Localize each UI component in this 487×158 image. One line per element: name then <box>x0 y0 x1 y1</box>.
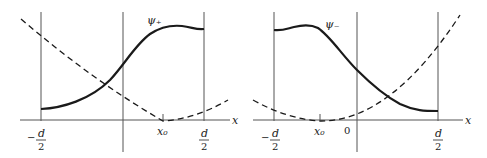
right-wall-den: 2 <box>201 141 207 152</box>
panel-psi-minus: ψ₋ x − d 2 x₀ 0 d 2 <box>253 12 472 152</box>
right-wall-num: d <box>201 127 208 140</box>
left-wall-den: 2 <box>38 141 44 152</box>
curve-label: ψ₋ <box>325 18 340 31</box>
wavefunction-solid-curve <box>274 25 438 111</box>
potential-dashed-curve <box>21 19 228 121</box>
x-axis-label: x <box>465 114 472 127</box>
left-wall-den: 2 <box>272 141 278 152</box>
left-wall-sign: − <box>27 132 35 143</box>
curve-label: ψ₊ <box>147 14 162 27</box>
x-axis-label: x <box>232 114 239 127</box>
right-wall-den: 2 <box>435 141 441 152</box>
x0-label: x₀ <box>314 125 325 138</box>
panel-psi-plus: ψ₊ x − d 2 x₀ d 2 <box>20 12 239 152</box>
left-wall-sign: − <box>261 132 269 143</box>
diagram-canvas: ψ₊ x − d 2 x₀ d 2 ψ₋ x − d 2 x₀ 0 d 2 <box>0 0 487 158</box>
origin-label: 0 <box>344 125 350 136</box>
x0-label: x₀ <box>157 125 168 138</box>
left-wall-num: d <box>272 127 279 140</box>
left-wall-num: d <box>38 127 45 140</box>
right-wall-num: d <box>435 127 442 140</box>
